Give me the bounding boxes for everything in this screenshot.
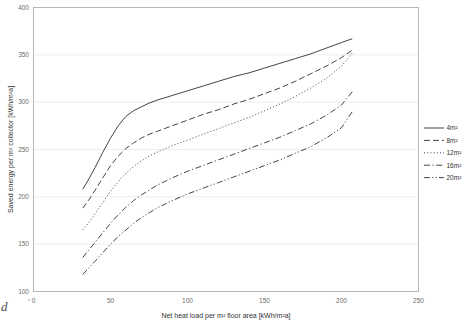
chart-figure: 100150200250300350400050100150200250Net …	[0, 0, 471, 323]
x-tick-label: 250	[413, 297, 424, 304]
legend-label-4m: 4m²	[447, 124, 459, 131]
scan-speck	[28, 299, 30, 301]
series-line-4m	[83, 39, 353, 190]
y-tick-label: 250	[18, 146, 29, 153]
y-tick-label: 300	[18, 98, 29, 105]
legend-label-20m: 20m²	[447, 174, 463, 181]
line-chart-canvas: 100150200250300350400050100150200250Net …	[0, 0, 471, 323]
legend-label-8m: 8m²	[447, 137, 459, 144]
series-line-20m	[83, 112, 353, 275]
x-tick-label: 200	[336, 297, 347, 304]
y-tick-label: 200	[18, 193, 29, 200]
y-tick-label: 150	[18, 240, 29, 247]
x-tick-label: 50	[107, 297, 115, 304]
x-tick-label: 0	[32, 297, 36, 304]
series-line-12m	[83, 53, 353, 230]
legend-label-16m: 16m²	[447, 162, 463, 169]
y-axis-label: Saved energy per m² collector [kWh/m²a]	[7, 86, 15, 213]
y-tick-label: 400	[18, 4, 29, 11]
series-line-8m	[83, 50, 353, 208]
legend: 4m²8m²12m²16m²20m²	[424, 124, 462, 181]
x-tick-label: 100	[182, 297, 193, 304]
series-line-16m	[83, 92, 353, 258]
y-tick-label: 100	[18, 288, 29, 295]
series-group	[83, 39, 353, 275]
x-axis-label: Net heat load per m² floor area [kWh/m²a…	[161, 312, 290, 320]
y-axis-tick-labels: 100150200250300350400	[18, 4, 29, 295]
x-tick-label: 150	[259, 297, 270, 304]
x-axis-tick-labels: 050100150200250	[32, 297, 425, 304]
y-tick-label: 350	[18, 51, 29, 58]
page-artifact-letter: d	[1, 300, 8, 313]
legend-label-12m: 12m²	[447, 149, 463, 156]
